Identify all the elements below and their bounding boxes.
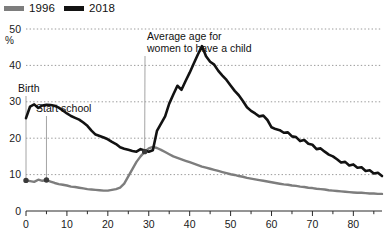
svg-text:70: 70 (307, 218, 319, 230)
x-axis (26, 211, 382, 216)
y-axis-tick-labels: 01020304050 (9, 23, 21, 217)
svg-text:50: 50 (9, 23, 21, 35)
annotation-leader-lines (26, 56, 145, 180)
svg-text:20: 20 (9, 132, 21, 144)
svg-text:60: 60 (266, 218, 278, 230)
svg-text:0: 0 (15, 205, 21, 217)
annotation-birth: Birth (18, 82, 40, 94)
svg-text:0: 0 (23, 218, 29, 230)
y-axis-unit-label: % (5, 35, 14, 46)
svg-text:80: 80 (348, 218, 360, 230)
annotation-start-school: Start school (36, 102, 91, 114)
svg-text:30: 30 (143, 218, 155, 230)
x-axis-tick-labels: 01020304050607080 (23, 218, 359, 230)
chart-container: 1996 2018 01020304050 % 0102030405060708… (0, 0, 385, 241)
svg-text:50: 50 (225, 218, 237, 230)
annotation-average-age-line1: Average age for (147, 30, 222, 42)
chart-plot: 01020304050 % 01020304050607080 Birth St… (0, 0, 385, 241)
svg-text:30: 30 (9, 95, 21, 107)
data-series-lines (26, 46, 382, 194)
svg-text:40: 40 (184, 218, 196, 230)
svg-text:20: 20 (102, 218, 114, 230)
annotation-average-age-line2: women to have a child (146, 42, 252, 54)
svg-text:40: 40 (9, 59, 21, 71)
svg-text:10: 10 (9, 168, 21, 180)
svg-text:10: 10 (61, 218, 73, 230)
